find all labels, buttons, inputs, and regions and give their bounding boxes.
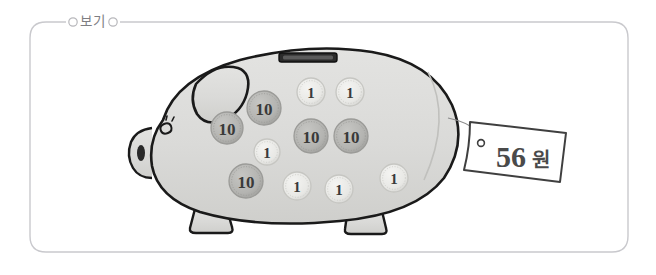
piggy-bank-illustration: 1010111101010111 56 원: [0, 0, 656, 275]
coin-slot: [279, 53, 337, 62]
tag-hole-icon: [478, 140, 485, 147]
screenshot-root: 보기 1010: [0, 0, 656, 275]
coin-denomination-label: 1: [263, 145, 271, 161]
price-tag: 56 원: [464, 122, 566, 182]
coin-one-3: 1: [336, 78, 364, 106]
price-tag-amount: 56: [496, 140, 526, 173]
coin-ten-7: 10: [229, 164, 263, 198]
coin-denomination-label: 10: [238, 173, 255, 192]
coin-one-4: 1: [254, 139, 280, 165]
coin-ten-5: 10: [294, 119, 328, 153]
coin-one-9: 1: [325, 175, 353, 203]
coin-denomination-label: 1: [346, 85, 354, 101]
coin-denomination-label: 1: [307, 85, 315, 101]
coin-one-10: 1: [380, 164, 408, 192]
coin-denomination-label: 1: [293, 179, 301, 195]
coin-one-8: 1: [283, 172, 311, 200]
coin-ten-0: 10: [211, 112, 243, 144]
snout: [129, 128, 152, 178]
coin-denomination-label: 10: [219, 120, 236, 139]
coin-denomination-label: 1: [390, 171, 398, 187]
coin-denomination-label: 10: [303, 128, 320, 147]
coin-ten-1: 10: [247, 91, 281, 125]
coin-denomination-label: 10: [343, 128, 360, 147]
nostril-icon: [137, 145, 145, 161]
price-tag-currency: 원: [532, 149, 550, 171]
coin-denomination-label: 10: [256, 100, 273, 119]
coin-ten-6: 10: [334, 119, 368, 153]
coin-one-2: 1: [297, 78, 325, 106]
coin-denomination-label: 1: [335, 182, 343, 198]
